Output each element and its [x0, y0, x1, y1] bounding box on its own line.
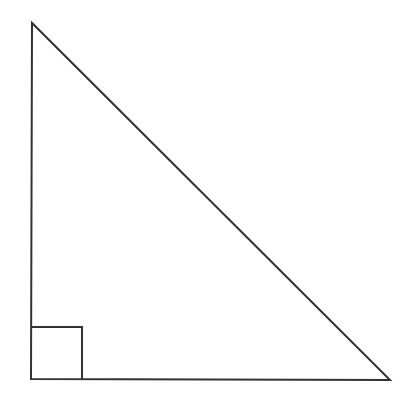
right-angle-marker [31, 327, 82, 379]
right-triangle-diagram [0, 0, 408, 409]
triangle [31, 23, 390, 380]
